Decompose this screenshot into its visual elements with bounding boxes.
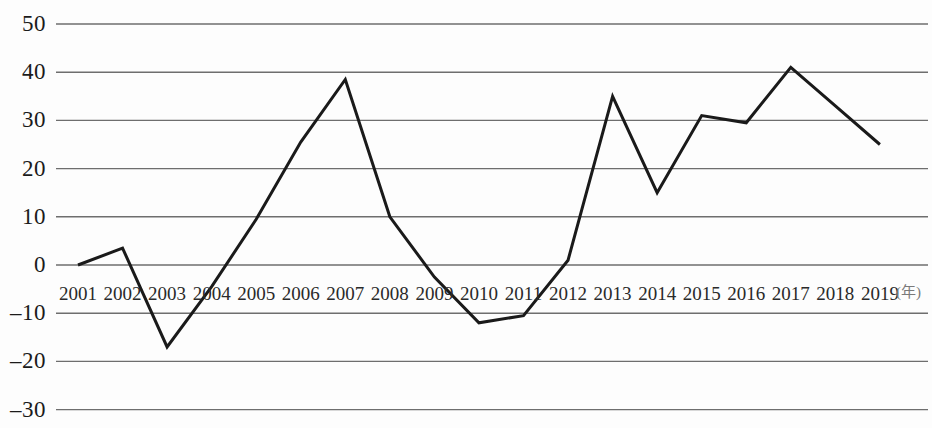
x-axis-tick-label: 2010: [460, 283, 498, 305]
x-axis-tick-label: 2013: [594, 283, 632, 305]
x-axis-tick-label: 2011: [505, 283, 542, 305]
x-axis-tick-label: 2004: [193, 283, 231, 305]
x-axis-tick-label: 2007: [326, 283, 364, 305]
x-axis-tick-label: 2009: [415, 283, 453, 305]
x-axis-tick-label: 2003: [148, 283, 186, 305]
y-axis-tick-label: 10: [0, 204, 46, 230]
y-axis-tick-label: 50: [0, 11, 46, 37]
x-axis-tick-label: 2005: [237, 283, 275, 305]
y-axis-tick-label: –10: [0, 300, 46, 326]
x-axis-unit-label: (年): [896, 280, 921, 301]
data-line-layer: [0, 0, 932, 428]
y-axis-tick-label: 20: [0, 156, 46, 182]
x-axis-tick-label: 2017: [772, 283, 810, 305]
x-axis-tick-label: 2001: [59, 283, 97, 305]
x-axis-tick-label: 2012: [549, 283, 587, 305]
series-line: [78, 67, 880, 347]
x-axis-tick-label: 2006: [282, 283, 320, 305]
line-chart: 50403020100–10–20–30 2001200220032004200…: [0, 0, 932, 428]
x-axis-tick-label: 2014: [638, 283, 676, 305]
x-axis-tick-label: 2019: [861, 283, 899, 305]
x-axis-tick-label: 2008: [371, 283, 409, 305]
y-axis-tick-label: 30: [0, 107, 46, 133]
y-axis-tick-label: –20: [0, 348, 46, 374]
y-axis-tick-label: –30: [0, 397, 46, 423]
x-axis-tick-label: 2018: [816, 283, 854, 305]
y-axis-tick-label: 0: [0, 252, 46, 278]
x-axis-tick-label: 2016: [727, 283, 765, 305]
x-axis-tick-label: 2002: [104, 283, 142, 305]
y-axis-tick-label: 40: [0, 59, 46, 85]
x-axis-tick-label: 2015: [683, 283, 721, 305]
